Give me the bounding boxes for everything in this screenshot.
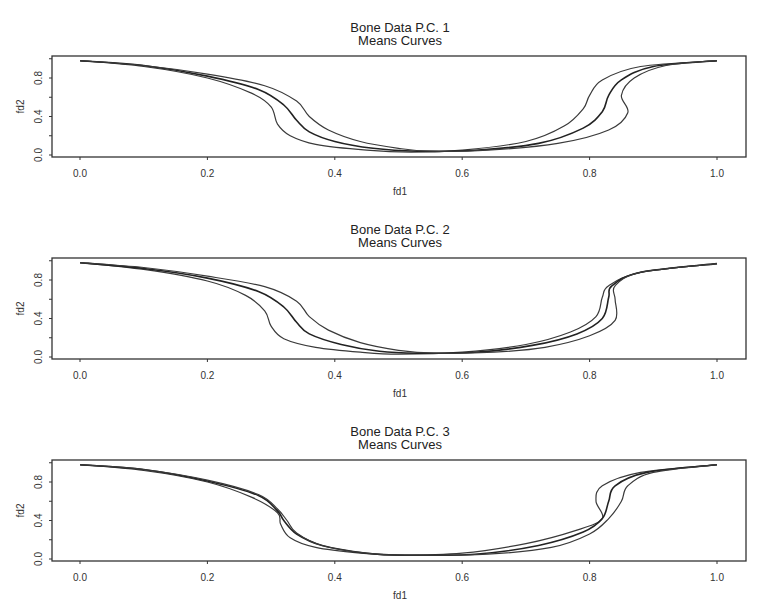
y-tick-label: 0.8 bbox=[33, 475, 44, 489]
x-tick-label: 0.8 bbox=[583, 168, 597, 179]
plot-frame bbox=[52, 460, 746, 561]
y-tick-label: 0.4 bbox=[33, 513, 44, 527]
x-tick-label: 0.6 bbox=[455, 370, 469, 381]
x-tick-label: 0.2 bbox=[200, 572, 214, 583]
y-tick-label: 0.0 bbox=[33, 552, 44, 566]
y-tick-label: 0.4 bbox=[33, 109, 44, 123]
x-tick-label: 0.0 bbox=[73, 168, 87, 179]
plot-frame bbox=[52, 258, 746, 359]
x-tick-label: 0.0 bbox=[73, 370, 87, 381]
series-line bbox=[80, 465, 717, 556]
y-tick-label: 0.8 bbox=[33, 71, 44, 85]
series-line bbox=[80, 61, 717, 152]
panel-pc2: Bone Data P.C. 2Means Curves0.00.20.40.6… bbox=[0, 202, 762, 406]
x-tick-label: 0.8 bbox=[583, 370, 597, 381]
plot-frame bbox=[52, 56, 746, 157]
x-axis-label: fd1 bbox=[393, 186, 407, 197]
x-tick-label: 0.0 bbox=[73, 572, 87, 583]
y-axis-label: fd2 bbox=[15, 99, 26, 113]
series-line bbox=[80, 465, 717, 556]
x-tick-label: 0.4 bbox=[328, 572, 342, 583]
series-line bbox=[80, 465, 717, 556]
x-tick-label: 1.0 bbox=[710, 168, 724, 179]
series-line bbox=[80, 263, 717, 354]
y-axis-label: fd2 bbox=[15, 301, 26, 315]
plot-area: 0.00.20.40.60.81.00.00.40.8fd1fd2 bbox=[0, 202, 762, 406]
x-tick-label: 0.2 bbox=[200, 370, 214, 381]
series-line bbox=[80, 263, 717, 354]
x-tick-label: 0.6 bbox=[455, 572, 469, 583]
x-tick-label: 0.8 bbox=[583, 572, 597, 583]
x-axis-label: fd1 bbox=[393, 388, 407, 399]
x-tick-label: 0.2 bbox=[200, 168, 214, 179]
y-tick-label: 0.4 bbox=[33, 311, 44, 325]
y-tick-label: 0.0 bbox=[33, 350, 44, 364]
series-line bbox=[80, 263, 717, 354]
panel-pc1: Bone Data P.C. 1Means Curves0.00.20.40.6… bbox=[0, 0, 762, 204]
y-tick-label: 0.0 bbox=[33, 148, 44, 162]
series-line bbox=[80, 61, 717, 152]
panel-pc3: Bone Data P.C. 3Means Curves0.00.20.40.6… bbox=[0, 404, 762, 608]
x-tick-label: 0.4 bbox=[328, 370, 342, 381]
plot-area: 0.00.20.40.60.81.00.00.40.8fd1fd2 bbox=[0, 404, 762, 608]
x-axis-label: fd1 bbox=[393, 590, 407, 601]
x-tick-label: 0.4 bbox=[328, 168, 342, 179]
series-line bbox=[80, 61, 717, 152]
y-tick-label: 0.8 bbox=[33, 273, 44, 287]
x-tick-label: 1.0 bbox=[710, 572, 724, 583]
plot-area: 0.00.20.40.60.81.00.00.40.8fd1fd2 bbox=[0, 0, 762, 204]
x-tick-label: 1.0 bbox=[710, 370, 724, 381]
y-axis-label: fd2 bbox=[15, 503, 26, 517]
x-tick-label: 0.6 bbox=[455, 168, 469, 179]
